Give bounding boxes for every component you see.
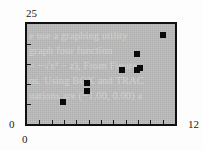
ghost-line: e use a graphing utility	[29, 28, 177, 43]
x-axis-tick	[113, 120, 114, 124]
y-axis-tick	[27, 64, 31, 65]
y-axis-max-label: 25	[26, 8, 37, 19]
x-axis-max-label: 12	[188, 119, 199, 130]
scatter-plot-figure: 25 0 0 12 e use a graphing utility graph…	[0, 0, 203, 150]
plot-area: e use a graphing utility graph four func…	[25, 22, 177, 126]
data-point	[84, 88, 90, 94]
x-axis-tick	[76, 120, 77, 124]
data-point	[60, 99, 66, 105]
ghost-watermark-text: e use a graphing utility graph four func…	[29, 28, 177, 103]
x-axis-min-label: 0	[22, 134, 28, 145]
ghost-line: uations are (−1.00, 0.00) a	[29, 88, 177, 103]
ghost-line: = −√x² − z), From Figure	[29, 58, 177, 73]
x-axis-tick	[101, 120, 102, 124]
x-axis-tick	[39, 120, 40, 124]
data-point	[119, 67, 125, 73]
data-point	[134, 67, 140, 73]
paper-texture-overlay	[27, 24, 175, 124]
y-axis-tick	[27, 104, 31, 105]
x-axis-tick	[150, 120, 151, 124]
x-axis-tick	[52, 120, 53, 124]
x-axis-tick	[64, 120, 65, 124]
x-axis-tick	[138, 120, 139, 124]
data-point	[134, 51, 140, 57]
x-axis-tick	[163, 120, 164, 124]
data-point	[160, 32, 166, 38]
y-axis-min-label: 0	[9, 119, 15, 130]
y-axis-tick	[27, 84, 31, 85]
ghost-line: ns. Using BOX and TRAC	[29, 73, 177, 88]
y-axis-tick	[27, 44, 31, 45]
data-point	[84, 80, 90, 86]
x-axis-tick	[89, 120, 90, 124]
x-axis-tick	[126, 120, 127, 124]
ghost-line: graph four function	[29, 43, 177, 58]
